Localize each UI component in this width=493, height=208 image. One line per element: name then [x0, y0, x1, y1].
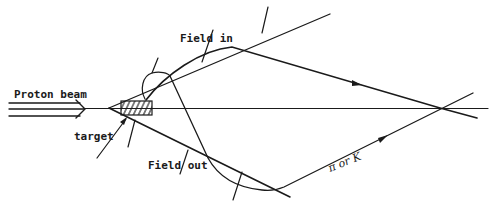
- lower-ray-arrowhead: [378, 135, 388, 143]
- upper-acceptance-line: [109, 14, 330, 108]
- field-out-label: Field out: [148, 159, 208, 172]
- target-label: target: [74, 130, 114, 143]
- target-block: [121, 101, 152, 115]
- proton-beam-label: Proton beam: [14, 88, 87, 101]
- focusing-diagram: Proton beam target Field in Field out π …: [0, 0, 493, 208]
- upper-trajectory: [146, 47, 477, 118]
- target-boundary-upper: [152, 58, 158, 73]
- field-in-label: Field in: [180, 32, 233, 45]
- target-boundary-lower: [128, 120, 135, 147]
- upper-ray-arrowhead: [352, 80, 362, 86]
- lower-acceptance-line: [109, 108, 290, 197]
- field-in-boundary-upper: [262, 7, 268, 33]
- upper-loop: [142, 72, 170, 99]
- proton-beam-arrow: [9, 100, 85, 118]
- particle-label: π or K: [325, 150, 363, 176]
- lower-trajectory: [170, 76, 473, 190]
- target-pointer-arrowhead: [120, 117, 127, 125]
